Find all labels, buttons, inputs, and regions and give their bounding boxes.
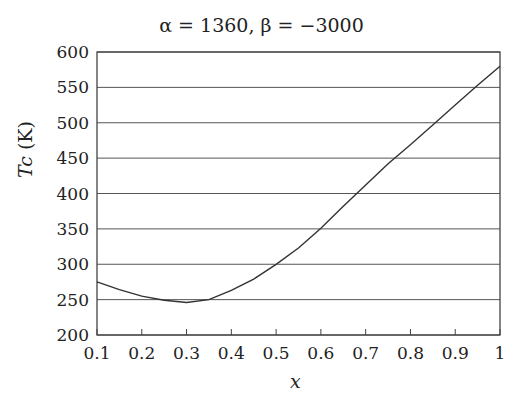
plot-area: 2002503003504004505005506000.10.20.30.40… xyxy=(0,0,523,407)
svg-text:0.2: 0.2 xyxy=(128,343,155,363)
svg-text:450: 450 xyxy=(57,148,89,168)
svg-text:0.6: 0.6 xyxy=(307,343,334,363)
svg-text:350: 350 xyxy=(57,219,89,239)
x-axis-label: x xyxy=(290,370,301,392)
svg-text:0.5: 0.5 xyxy=(263,343,290,363)
svg-text:0.1: 0.1 xyxy=(83,343,110,363)
svg-text:0.7: 0.7 xyxy=(352,343,379,363)
svg-text:0.8: 0.8 xyxy=(397,343,424,363)
svg-text:250: 250 xyxy=(57,290,89,310)
svg-text:0.4: 0.4 xyxy=(218,343,245,363)
y-axis-label: Tc (K) xyxy=(14,118,36,178)
tick-labels: 2002503003504004505005506000.10.20.30.40… xyxy=(57,42,506,363)
svg-text:200: 200 xyxy=(57,325,89,345)
svg-text:600: 600 xyxy=(57,42,89,62)
svg-text:300: 300 xyxy=(57,254,89,274)
svg-text:0.3: 0.3 xyxy=(173,343,200,363)
svg-text:400: 400 xyxy=(57,184,89,204)
data-line xyxy=(97,66,500,302)
svg-text:500: 500 xyxy=(57,113,89,133)
svg-text:1: 1 xyxy=(495,343,506,363)
gridlines xyxy=(97,52,500,335)
svg-text:0.9: 0.9 xyxy=(442,343,469,363)
svg-text:550: 550 xyxy=(57,77,89,97)
